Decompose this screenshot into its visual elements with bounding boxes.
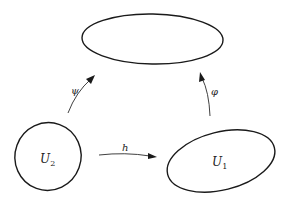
phi-arrowhead-icon	[199, 72, 205, 82]
h-arrowhead-icon	[148, 153, 157, 159]
target-ellipse	[82, 13, 224, 65]
u2-label: U2	[40, 152, 55, 168]
phi-label: φ	[211, 86, 218, 97]
node-target	[82, 13, 224, 65]
edge-h: h	[99, 142, 157, 159]
edge-psi: ψ	[68, 75, 95, 113]
node-u2: U2	[5, 113, 90, 199]
h-arrow-line	[99, 154, 150, 156]
diagram-canvas: U2 U1 ψ φ h	[0, 0, 288, 202]
h-label: h	[122, 142, 128, 153]
edge-phi: φ	[199, 72, 218, 116]
node-u1: U1	[161, 120, 282, 202]
phi-arrow-line	[202, 78, 210, 116]
psi-label: ψ	[71, 85, 79, 96]
u1-label: U1	[212, 155, 227, 171]
